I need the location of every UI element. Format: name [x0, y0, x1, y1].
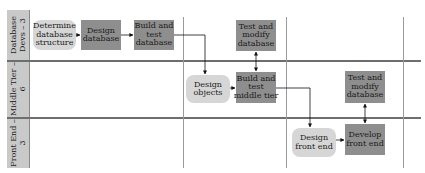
arrow-build-mt-to-design-fe: [276, 88, 310, 127]
swimlane-diagram: Database Devs – 3 Middle Tier – 6 Front …: [0, 0, 425, 173]
node-label: Determine database structure: [33, 22, 76, 48]
node-label: Build and test middle tier: [234, 75, 279, 101]
node-label: Design database: [83, 27, 120, 44]
lane-label: Front End – 3: [9, 119, 27, 167]
node-label: Test and modify database: [347, 74, 384, 100]
phase-divider: [286, 17, 287, 168]
node-develop-front-end[interactable]: Develop front end: [345, 124, 385, 155]
node-label: Build and test database: [135, 22, 174, 48]
node-label: Test and modify database: [238, 23, 275, 49]
node-label: Develop front end: [346, 131, 384, 148]
node-determine-database-structure[interactable]: Determine database structure: [33, 20, 76, 50]
node-label: Design objects: [194, 81, 223, 98]
phase-divider: [183, 17, 184, 168]
phase-divider: [403, 17, 404, 168]
node-test-modify-database-1[interactable]: Test and modify database: [236, 20, 276, 51]
arrow-build-db-to-design-objects: [174, 35, 205, 74]
lane-divider: [7, 60, 421, 62]
node-label: Design front end: [295, 134, 333, 151]
node-design-objects[interactable]: Design objects: [186, 75, 230, 103]
node-build-test-database[interactable]: Build and test database: [134, 20, 174, 50]
lane-divider: [7, 117, 421, 119]
lane-label: Database Devs – 3: [9, 16, 27, 54]
lane-header-middle-tier: Middle Tier – 6: [7, 61, 30, 117]
node-build-test-middle-tier[interactable]: Build and test middle tier: [236, 72, 276, 103]
node-design-front-end[interactable]: Design front end: [292, 128, 336, 157]
node-test-modify-database-2[interactable]: Test and modify database: [345, 71, 385, 103]
node-design-database[interactable]: Design database: [81, 20, 121, 50]
lane-header-database-devs: Database Devs – 3: [7, 10, 30, 60]
lane-header-front-end: Front End – 3: [7, 118, 30, 168]
lane-label: Middle Tier – 6: [9, 62, 27, 116]
